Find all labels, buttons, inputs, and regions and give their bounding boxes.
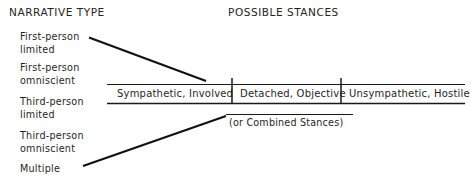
narrative-type-multiple: Multiple — [20, 164, 60, 174]
narrative-type-third-person-omniscient-line2: omniscient — [20, 144, 75, 154]
narrative-type-third-person-omniscient-line1: Third-person — [20, 131, 84, 141]
lower-connector-line — [83, 116, 226, 166]
narrative-stance-diagram: NARRATIVE TYPE POSSIBLE STANCES First-pe… — [0, 0, 471, 183]
stance-cell-detached-objective: Detached, Objective — [240, 89, 346, 99]
possible-stances-header: POSSIBLE STANCES — [228, 7, 339, 18]
upper-connector-line — [89, 38, 206, 82]
narrative-type-first-person-omniscient-line1: First-person — [20, 63, 80, 73]
narrative-type-first-person-limited-line1: First-person — [20, 32, 80, 42]
narrative-type-first-person-limited-line2: limited — [20, 45, 55, 55]
narrative-type-first-person-omniscient-line2: omniscient — [20, 76, 75, 86]
combined-stances-note: (or Combined Stances) — [229, 118, 343, 128]
stance-cell-sympathetic-involved: Sympathetic, Involved — [117, 89, 233, 99]
narrative-type-third-person-limited-line2: limited — [20, 110, 55, 120]
stance-cell-unsympathetic-hostile: Unsympathetic, Hostile — [349, 89, 470, 99]
narrative-type-third-person-limited-line1: Third-person — [20, 97, 84, 107]
narrative-type-header: NARRATIVE TYPE — [9, 7, 105, 18]
